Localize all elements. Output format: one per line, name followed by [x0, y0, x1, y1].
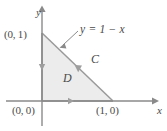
- curve-label-C: C: [91, 53, 99, 65]
- x-axis-label: x: [157, 105, 162, 116]
- vertex-label-1-0: (1, 0): [96, 105, 119, 116]
- vertex-label-0-0: (0, 0): [12, 105, 35, 116]
- y-axis-label: y: [36, 7, 41, 18]
- equation-leader-line: [63, 31, 78, 45]
- equation-leader-arrowhead-icon: [60, 43, 67, 48]
- equation-label: y = 1 − x: [80, 24, 125, 36]
- vertex-label-0-1: (0, 1): [4, 29, 27, 40]
- math-figure-triangular-region: (0, 1) (0, 0) (1, 0) y x D C y = 1 − x: [0, 0, 167, 131]
- region-label-D: D: [63, 72, 72, 84]
